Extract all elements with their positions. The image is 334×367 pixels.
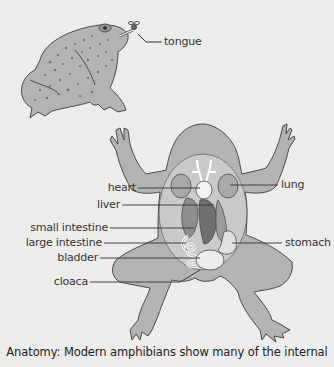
label-liver: liver bbox=[97, 198, 120, 211]
label-tongue: tongue bbox=[164, 35, 202, 48]
label-bladder: bladder bbox=[57, 251, 98, 264]
label-heart: heart bbox=[108, 181, 136, 194]
bladder-organ bbox=[196, 250, 224, 270]
label-large-intestine: large intestine bbox=[26, 236, 102, 249]
label-cloaca: cloaca bbox=[54, 275, 88, 288]
label-lung: lung bbox=[281, 178, 304, 191]
figure-caption: Anatomy: Modern amphibians show many of … bbox=[0, 345, 334, 359]
label-stomach: stomach bbox=[285, 236, 331, 249]
tongue-leader-line bbox=[138, 34, 162, 42]
label-small-intestine: small intestine bbox=[30, 221, 108, 234]
heart-organ bbox=[196, 181, 212, 199]
toad-illustration bbox=[21, 22, 139, 119]
frog-anatomy-figure: tongue heart liver small intestine large… bbox=[0, 0, 334, 367]
